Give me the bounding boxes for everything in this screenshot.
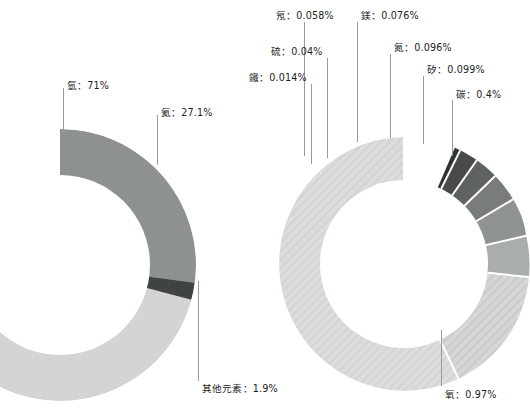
label-sulfur: 硫：0.04% — [271, 46, 323, 58]
body-text-line: 成較大 — [0, 21, 58, 46]
label-carbon: 碳：0.4% — [456, 89, 501, 101]
label-other-elements: 其他元素：1.9% — [202, 383, 278, 395]
leader-line-oxygen — [441, 330, 442, 386]
leader-line-neon — [304, 22, 305, 156]
leader-line-hydrogen — [63, 88, 64, 132]
leader-line-carbon — [452, 100, 453, 156]
leader-line-sulfur — [327, 58, 328, 158]
leader-line-helium — [157, 115, 158, 165]
label-magnesium: 鎂：0.076% — [361, 10, 419, 22]
sun-trace-elements-chart — [276, 118, 530, 410]
bulk-donut-segments — [0, 129, 196, 401]
bulk-donut-svg — [0, 120, 235, 410]
label-silicon: 矽：0.099% — [427, 64, 485, 76]
label-neon: 氖：0.058% — [276, 10, 334, 22]
label-helium: 氦：27.1% — [161, 107, 213, 119]
label-iron: 鐵：0.014% — [249, 72, 307, 84]
leader-line-iron — [311, 84, 312, 164]
label-oxygen: 氧：0.97% — [445, 389, 497, 401]
label-nitrogen: 氮：0.096% — [394, 42, 452, 54]
body-text-line: 合形成 — [0, 47, 58, 72]
leader-line-nitrogen — [390, 54, 391, 138]
segment-helium — [60, 129, 196, 283]
trace-donut-svg — [276, 118, 530, 410]
body-text-line: ク化鎂 — [0, 72, 58, 97]
leader-line-other-elements — [198, 281, 199, 381]
body-text-line: 月太陽 — [0, 0, 58, 21]
leader-line-silicon — [423, 76, 424, 144]
sun-bulk-composition-chart — [0, 120, 235, 410]
body-text-column: 月太陽 成較大 合形成 ク化鎂 和氦是 — [0, 0, 58, 123]
label-hydrogen: 氫：71% — [67, 80, 109, 92]
leader-line-magnesium — [357, 22, 358, 142]
figure-canvas: 月太陽 成較大 合形成 ク化鎂 和氦是 — [0, 0, 530, 413]
